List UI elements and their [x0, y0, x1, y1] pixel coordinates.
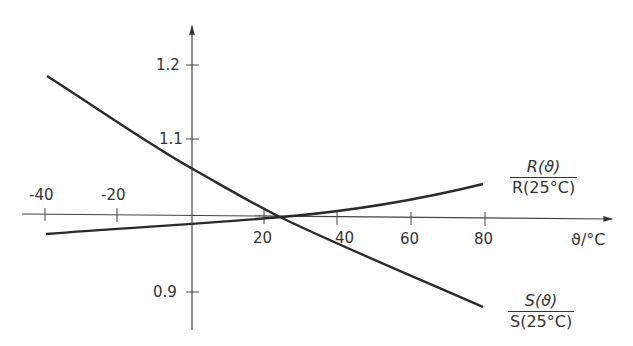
legend-r-denominator: R(25°C)	[510, 179, 577, 197]
x-tick-label: -20	[101, 188, 126, 203]
legend-r-numerator: R(ϑ)	[510, 158, 577, 176]
legend-r: R(ϑ) R(25°C)	[510, 158, 577, 196]
legend-s-denominator: S(25°C)	[508, 313, 574, 331]
x-tick-label: 40	[335, 231, 354, 246]
y-tick-label: 0.9	[153, 285, 177, 300]
y-tick-label: 1.1	[159, 132, 183, 147]
legend-s: S(ϑ) S(25°C)	[508, 292, 574, 330]
x-tick-label: -40	[29, 188, 54, 203]
legend-s-numerator: S(ϑ)	[508, 292, 574, 310]
x-tick-label: 20	[253, 231, 272, 246]
x-axis	[22, 214, 612, 219]
x-tick-label: 60	[400, 232, 419, 247]
x-tick-label: 80	[474, 232, 493, 247]
x-axis-title: ϑ/°C	[571, 232, 605, 248]
y-tick-label: 1.2	[156, 58, 180, 73]
